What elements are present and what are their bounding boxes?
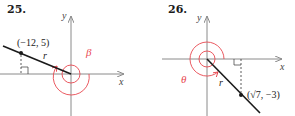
right-angle-icon [21,67,28,74]
problem-number: 25. [7,3,26,16]
diagram-canvas: 25. y x β (−12, 5) r 26. y x [0,0,295,116]
point-marker [19,51,23,55]
radius-label: r [219,77,223,88]
x-axis-label: x [118,76,124,87]
terminal-side [3,46,71,74]
x-axis-label: x [279,61,285,72]
terminal-side [207,59,260,113]
y-axis-label: y [196,12,202,23]
point-label: (√7, −3) [247,89,280,101]
point-label: (−12, 5) [17,37,49,49]
figure-26: 26. y x θ (√7, −3) r [162,3,285,116]
problem-number: 26. [168,3,187,16]
right-angle-icon [234,59,241,65]
angle-label: β [85,46,92,58]
angle-label: θ [181,73,187,85]
radius-label: r [43,50,47,61]
figure-25: 25. y x β (−12, 5) r [0,3,124,116]
y-axis-label: y [61,10,67,21]
point-marker [239,93,243,97]
